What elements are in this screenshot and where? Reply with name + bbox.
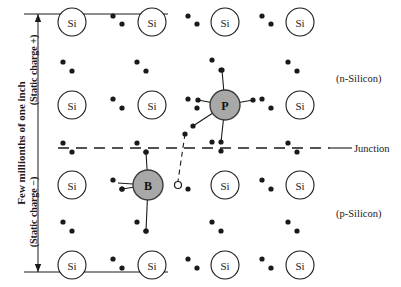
electron-dot — [143, 149, 148, 154]
electron-dot — [268, 105, 273, 110]
dimension-arrowhead-bottom — [35, 264, 41, 272]
electron-dot — [209, 57, 214, 62]
silicon-atom-label: Si — [220, 180, 229, 192]
hole-marker — [175, 182, 182, 189]
atom-group: SiSiSiSiSiSiSiSiSiSiSiSiSiSiPB — [58, 8, 314, 279]
electron-dot-group — [60, 13, 299, 270]
silicon-atom-label: Si — [220, 260, 229, 272]
electron-dot — [259, 13, 264, 18]
pn-junction-diagram: SiSiSiSiSiSiSiSiSiSiSiSiSiSiPB (n-Silico… — [0, 0, 401, 287]
electron-dot — [218, 67, 223, 72]
electron-dot — [268, 21, 273, 26]
electron-dot — [134, 219, 139, 224]
electron-dot — [119, 186, 124, 191]
silicon-atom-label: Si — [295, 100, 304, 112]
electron-dot — [134, 140, 139, 145]
electron-dot — [294, 228, 299, 233]
silicon-atom-label: Si — [147, 100, 156, 112]
annotation-text-group: (n-Silicon)(p-Silicon)JunctionFew millio… — [15, 35, 390, 248]
electron-dot — [69, 149, 74, 154]
dopant-atom-label-p: P — [221, 99, 228, 113]
electron-dot — [285, 140, 290, 145]
static-charge-negative-label: (Static charge −) — [28, 177, 40, 248]
silicon-atom-label: Si — [295, 180, 304, 192]
silicon-atom-label: Si — [147, 260, 156, 272]
silicon-atom-label: Si — [147, 17, 156, 29]
electron-dot — [110, 177, 115, 182]
phosphorus-bond-electron-1 — [250, 97, 255, 102]
p-silicon-region-label: (p-Silicon) — [336, 208, 382, 220]
electron-dot — [60, 59, 65, 64]
electron-dot — [285, 219, 290, 224]
silicon-atom-label: Si — [67, 100, 76, 112]
silicon-atom-label: Si — [67, 180, 76, 192]
phosphorus-bond-electron-3 — [218, 139, 223, 144]
n-silicon-region-label: (n-Silicon) — [336, 73, 382, 85]
phosphorus-bond-electron-4 — [190, 123, 195, 128]
phosphorus-bond-electron-0 — [195, 97, 200, 102]
electron-dot — [110, 96, 115, 101]
electron-dot — [218, 148, 223, 153]
silicon-atom-label: Si — [295, 17, 304, 29]
electron-dot — [209, 219, 214, 224]
electron-dot — [185, 256, 190, 261]
electron-dot — [185, 96, 190, 101]
electron-dot — [119, 21, 124, 26]
dimension-length-label: Few millionths of one inch — [15, 81, 27, 204]
covalent-bond-group — [118, 67, 256, 233]
electron-dot — [218, 228, 223, 233]
silicon-atom-label: Si — [67, 17, 76, 29]
junction-label: Junction — [354, 143, 390, 154]
electron-dot — [268, 186, 273, 191]
static-charge-positive-label: (Static charge +) — [28, 35, 40, 106]
electron-dot — [259, 256, 264, 261]
electron-dot — [69, 228, 74, 233]
dopant-atom-label-b: B — [144, 179, 152, 193]
silicon-atom-label: Si — [220, 17, 229, 29]
electron-dot — [194, 21, 199, 26]
silicon-atom-label: Si — [295, 260, 304, 272]
hole-migration-dashed-line — [178, 134, 185, 181]
electron-dot — [194, 105, 199, 110]
electron-dot — [209, 139, 214, 144]
electron-dot — [194, 265, 199, 270]
electron-dot — [110, 256, 115, 261]
electron-dot — [119, 265, 124, 270]
electron-dot — [285, 59, 290, 64]
electron-dot — [110, 13, 115, 18]
electron-dot — [294, 68, 299, 73]
electron-dot — [143, 228, 148, 233]
electron-dot — [60, 219, 65, 224]
electron-dot — [60, 140, 65, 145]
electron-dot — [119, 105, 124, 110]
electron-dot — [185, 186, 190, 191]
electron-dot — [259, 96, 264, 101]
electron-dot — [143, 68, 148, 73]
dimension-arrowhead-top — [35, 14, 41, 22]
electron-dot — [294, 149, 299, 154]
electron-dot — [268, 265, 273, 270]
electron-dot — [259, 177, 264, 182]
electron-dot — [134, 59, 139, 64]
electron-dot — [69, 68, 74, 73]
electron-dot — [185, 13, 190, 18]
silicon-atom-label: Si — [67, 260, 76, 272]
diagram-canvas: SiSiSiSiSiSiSiSiSiSiSiSiSiSiPB (n-Silico… — [0, 0, 401, 287]
